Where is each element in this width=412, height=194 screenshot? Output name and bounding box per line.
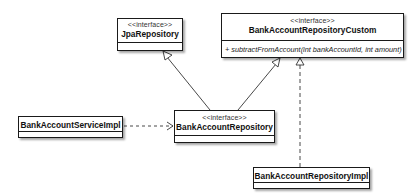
class-name: BankAccountRepositoryImpl (254, 171, 369, 181)
class-bank-account-repository-custom[interactable]: <<interface>> BankAccountRepositoryCusto… (221, 13, 404, 58)
stereotype-label: <<interface>> (222, 17, 403, 25)
class-bank-account-service-impl[interactable]: BankAccountServiceImpl (18, 116, 123, 138)
generalization-repository-to-jpa (163, 51, 210, 110)
hollow-triangle-arrowhead (163, 51, 172, 60)
class-name: BankAccountServiceImpl (19, 120, 122, 130)
compartment-divider (19, 131, 122, 132)
class-name: BankAccountRepository (175, 122, 274, 132)
hollow-triangle-arrowhead (296, 58, 304, 65)
compartment-divider (118, 42, 182, 43)
class-name: JpaRepository (118, 29, 182, 39)
generalization-repository-to-custom (238, 58, 280, 110)
class-name: BankAccountRepositoryCustom (222, 25, 403, 35)
hollow-triangle-arrowhead (272, 58, 280, 67)
compartment-divider (175, 135, 274, 136)
stereotype-label: <<interface>> (175, 114, 274, 122)
operation-subtract-from-account: + subtractFromAccount(int bankAccountId,… (222, 41, 403, 54)
class-jpa-repository[interactable]: <<interface>> JpaRepository (117, 18, 183, 51)
class-bank-account-repository[interactable]: <<interface>> BankAccountRepository (174, 110, 275, 143)
realization-impl-to-custom (296, 58, 304, 167)
class-bank-account-repository-impl[interactable]: BankAccountRepositoryImpl (253, 167, 370, 189)
compartment-divider (254, 182, 369, 183)
stereotype-label: <<interface>> (118, 21, 182, 29)
dependency-service-to-repository (124, 122, 173, 130)
